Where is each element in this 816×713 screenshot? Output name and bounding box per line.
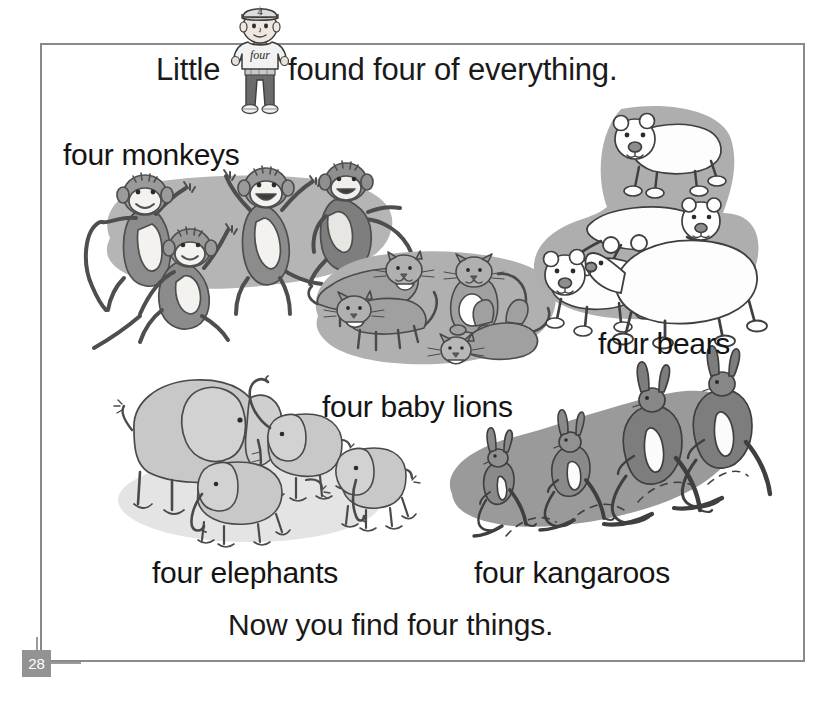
label-four-bears: four bears	[598, 327, 730, 361]
page-number-rule	[51, 662, 81, 664]
shirt-word-text: four	[250, 48, 270, 62]
page-number-tick	[36, 637, 38, 651]
illustration-bears	[525, 95, 780, 340]
title-text-before-figure: Little	[156, 52, 220, 88]
closing-sentence: Now you find four things.	[228, 608, 553, 642]
little-four-boy-figure: four 4	[226, 2, 294, 124]
cap-number-text: 4	[257, 5, 263, 17]
label-four-kangaroos: four kangaroos	[474, 556, 670, 590]
title-text-after-figure: found four of everything.	[288, 52, 617, 88]
label-four-elephants: four elephants	[152, 556, 338, 590]
label-four-monkeys: four monkeys	[63, 138, 239, 172]
page-number-badge: 28	[22, 650, 51, 677]
label-four-baby-lions: four baby lions	[322, 390, 513, 424]
